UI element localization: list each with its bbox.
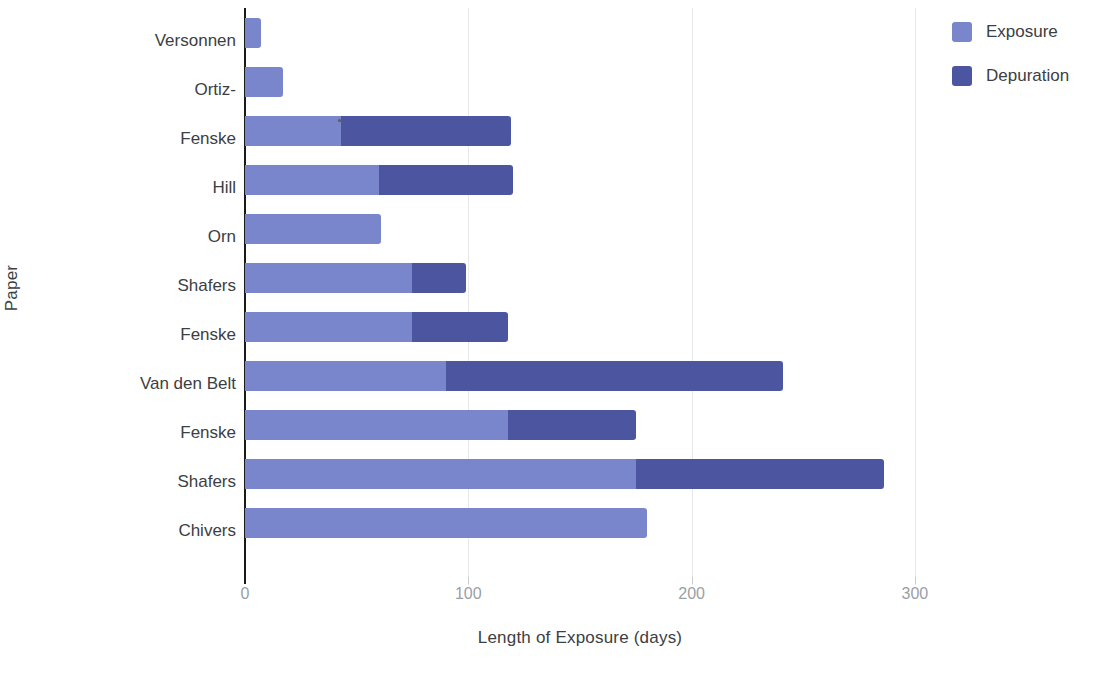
bar-segment-exposure (245, 361, 446, 391)
bar-segment-exposure (245, 67, 283, 97)
bar-segment-depuration (508, 410, 635, 440)
y-axis-category-label: Van den Belt (0, 374, 236, 394)
bar-segment-depuration (412, 312, 508, 342)
x-axis-tick-label: 300 (885, 585, 945, 603)
bar-segment-depuration (341, 116, 511, 146)
x-axis-tick-label: 100 (438, 585, 498, 603)
bar-segment-exposure (245, 312, 412, 342)
y-axis-category-label: Hill (0, 178, 236, 198)
x-axis-title: Length of Exposure (days) (245, 628, 915, 648)
table-row (245, 214, 917, 244)
x-axis-tick-label: 200 (662, 585, 722, 603)
table-row (245, 410, 917, 440)
scan-speck (338, 119, 341, 122)
table-row (245, 459, 917, 489)
y-axis-category-label: Fenske (0, 423, 236, 443)
x-axis-tick-mark (468, 577, 469, 584)
y-axis-tick-labels: VersonnenOrtiz-FenskeHillOrnShafersFensk… (0, 8, 236, 577)
y-axis-category-label: Versonnen (0, 31, 236, 51)
bar-segment-exposure (245, 263, 412, 293)
legend-swatch-icon (952, 22, 972, 42)
bar-segment-depuration (636, 459, 884, 489)
bar-segment-depuration (379, 165, 513, 195)
table-row (245, 263, 917, 293)
y-axis-category-label: Shafers (0, 472, 236, 492)
legend-item[interactable]: Depuration (952, 54, 1118, 98)
bar-segment-exposure (245, 165, 379, 195)
legend: ExposureDepuration (952, 10, 1118, 98)
bar-segment-depuration (446, 361, 783, 391)
bar-chart: Paper VersonnenOrtiz-FenskeHillOrnShafer… (0, 0, 1118, 683)
table-row (245, 361, 917, 391)
table-row (245, 67, 917, 97)
bar-segment-exposure (245, 459, 636, 489)
y-axis-category-label: Fenske (0, 325, 236, 345)
y-axis-category-label: Orn (0, 227, 236, 247)
y-axis-category-label: Fenske (0, 129, 236, 149)
table-row (245, 165, 917, 195)
table-row (245, 116, 917, 146)
y-axis-category-label: Shafers (0, 276, 236, 296)
table-row (245, 18, 917, 48)
y-axis-category-label: Chivers (0, 521, 236, 541)
legend-item[interactable]: Exposure (952, 10, 1118, 54)
bar-segment-exposure (245, 410, 508, 440)
legend-swatch-icon (952, 66, 972, 86)
bar-segment-exposure (245, 214, 381, 244)
legend-label: Exposure (986, 22, 1058, 42)
x-axis-tick-label: 0 (215, 585, 275, 603)
x-axis-tick-mark (915, 577, 916, 584)
legend-label: Depuration (986, 66, 1069, 86)
x-axis-tick-mark (244, 577, 246, 584)
table-row (245, 312, 917, 342)
table-row (245, 508, 917, 538)
bar-segment-exposure (245, 18, 261, 48)
x-axis-tick-mark (692, 577, 693, 584)
y-axis-category-label: Ortiz- (0, 80, 236, 100)
bar-segment-exposure (245, 508, 647, 538)
bar-segment-exposure (245, 116, 341, 146)
bar-segment-depuration (412, 263, 466, 293)
